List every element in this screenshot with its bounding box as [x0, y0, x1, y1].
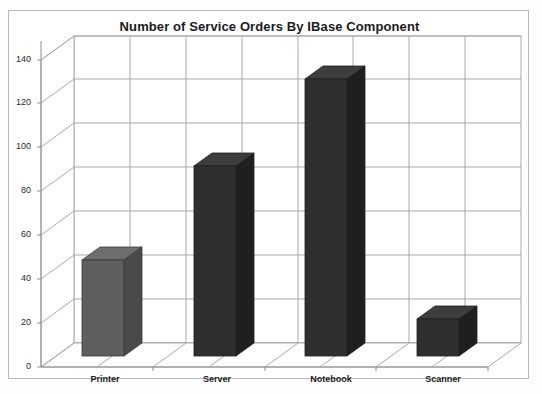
ytick-label-140: 140	[0, 54, 31, 64]
category-label-scanner: Scanner	[403, 374, 483, 384]
plot-area	[9, 11, 530, 380]
ytick-label-100: 100	[0, 141, 31, 151]
bar-server-front	[194, 166, 236, 356]
ytick-label-120: 120	[0, 97, 31, 107]
bar-notebook-side	[347, 66, 365, 356]
chart-frame: Number of Service Orders By IBase Compon…	[8, 10, 529, 379]
bar-printer	[82, 247, 142, 356]
bar-printer-front	[82, 260, 124, 356]
bar-notebook-front	[305, 79, 347, 356]
scan-background: Number of Service Orders By IBase Compon…	[0, 0, 542, 394]
ytick-label-20: 20	[0, 317, 31, 327]
chart-svg	[9, 11, 530, 380]
bar-printer-side	[124, 247, 142, 356]
ytick-label-80: 80	[0, 185, 31, 195]
bar-scanner-front	[417, 319, 459, 356]
category-label-printer: Printer	[67, 374, 143, 384]
bar-server	[194, 153, 254, 356]
ytick-label-0: 0	[0, 361, 31, 371]
bar-notebook	[305, 66, 365, 356]
ytick-label-40: 40	[0, 273, 31, 283]
category-label-server: Server	[179, 374, 255, 384]
category-axis-ticks	[153, 367, 488, 371]
value-axis-ticks	[37, 60, 41, 367]
left-wall	[41, 36, 74, 367]
category-label-notebook: Notebook	[289, 374, 373, 384]
bar-scanner	[417, 306, 477, 356]
bar-server-side	[236, 153, 254, 356]
ytick-label-60: 60	[0, 229, 31, 239]
